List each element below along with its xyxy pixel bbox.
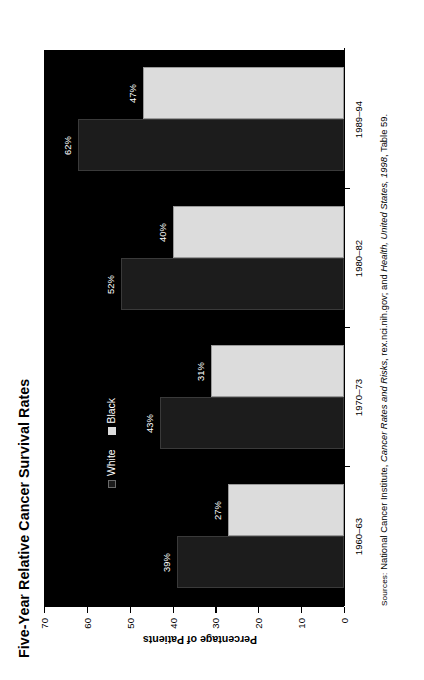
x-tick-label: 1980–82 (353, 214, 364, 304)
chart-figure: Five-Year Relative Cancer Survival Rates… (0, 0, 424, 680)
y-tick-label: 70 (39, 618, 50, 646)
chart-legend: WhiteBlack (106, 398, 117, 488)
x-tick-mark (344, 188, 350, 189)
bar-value-label: 62% (62, 136, 73, 155)
bar-white-3: 62% (78, 120, 344, 172)
bar-black-2: 40% (173, 207, 344, 259)
legend-label: Black (106, 398, 117, 423)
bar-black-0: 27% (228, 485, 344, 537)
bar-value-label: 39% (161, 553, 172, 572)
source-text-1: National Cancer Institute, (378, 462, 389, 572)
y-tick-mark (87, 607, 88, 613)
y-axis-title: Percentage of Patients (100, 634, 300, 646)
bar-white-1: 43% (160, 398, 344, 450)
x-tick-label: 1989–94 (353, 75, 364, 165)
y-tick-label: 0 (339, 618, 350, 646)
legend-swatch-icon (108, 427, 116, 435)
x-tick-label: 1960–63 (353, 492, 364, 582)
y-tick-mark (344, 607, 345, 613)
bar-value-label: 40% (157, 223, 168, 242)
y-tick-mark (301, 607, 302, 613)
x-tick-label: 1970–73 (353, 353, 364, 443)
y-tick-label: 60 (81, 618, 92, 646)
bar-black-1: 31% (211, 346, 344, 398)
bar-white-0: 39% (177, 537, 344, 589)
plot-area: WhiteBlack 39%27%43%31%52%40%62%47% (44, 50, 344, 606)
x-tick-mark (344, 327, 350, 328)
source-italic-2: Health, United States, 1998 (378, 157, 389, 272)
y-tick-mark (130, 607, 131, 613)
legend-item-white: White (106, 449, 117, 488)
legend-swatch-icon (108, 480, 116, 488)
y-tick-mark (215, 607, 216, 613)
bar-value-label: 31% (195, 362, 206, 381)
y-axis-line (44, 606, 344, 607)
y-tick-mark (258, 607, 259, 613)
bar-black-3: 47% (143, 68, 344, 120)
bar-value-label: 27% (212, 501, 223, 520)
rotated-figure-stage: Five-Year Relative Cancer Survival Rates… (0, 0, 424, 680)
source-note: Sources: National Cancer Institute, Canc… (378, 114, 389, 606)
source-text-2: , rex.nci.nih.gov; and (378, 272, 389, 361)
bar-value-label: 52% (105, 275, 116, 294)
bar-white-2: 52% (121, 259, 344, 311)
bar-value-label: 47% (127, 84, 138, 103)
x-tick-mark (344, 466, 350, 467)
y-tick-mark (44, 607, 45, 613)
source-italic-1: Cancer Rates and Risks (378, 361, 389, 462)
legend-item-black: Black (106, 398, 117, 435)
source-label: Sources: (380, 572, 389, 606)
legend-label: White (106, 449, 117, 476)
y-tick-mark (173, 607, 174, 613)
chart-title: Five-Year Relative Cancer Survival Rates (16, 379, 32, 658)
source-text-3: , Table 59. (378, 114, 389, 157)
bar-value-label: 43% (144, 414, 155, 433)
